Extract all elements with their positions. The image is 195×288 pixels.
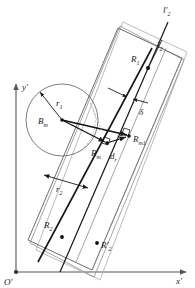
point-Rm1-marker <box>127 134 131 138</box>
figure-container: l′2 l2 R1 δ r1 Bm Rm dr Rm1 <box>0 0 195 288</box>
origin-point <box>14 270 18 274</box>
delta-arrow-left <box>108 88 127 97</box>
rectangle-inner-edges <box>76 48 182 270</box>
vector-Bm-to-Rm1 <box>62 120 127 135</box>
point-markers <box>60 66 150 245</box>
delta-arrow-right <box>133 99 148 103</box>
label-Rm1: Rm1 <box>132 134 146 146</box>
label-y-axis: y′ <box>21 82 29 92</box>
label-r2: r2 <box>56 184 63 196</box>
label-dr: dr <box>110 151 118 163</box>
label-R2: R2 <box>43 220 53 232</box>
label-R1: R1 <box>130 54 140 66</box>
label-origin: O′ <box>4 277 13 287</box>
label-Rm: Rm <box>90 148 102 160</box>
point-R2-marker <box>60 235 64 239</box>
label-R2-prime: R′2 <box>100 240 111 252</box>
delta-angle-indicators <box>108 88 148 103</box>
label-delta: δ <box>139 107 144 117</box>
inner-edge-mid <box>76 48 166 262</box>
vector-Bm-to-Rm <box>62 120 105 142</box>
point-Rm-marker <box>105 141 109 145</box>
point-R2-prime-marker <box>95 241 99 245</box>
label-Bm: Bm <box>38 116 49 128</box>
geometry-diagram: l′2 l2 R1 δ r1 Bm Rm dr Rm1 <box>0 0 195 288</box>
label-l2-prime: l′2 <box>163 5 170 17</box>
label-r1: r1 <box>56 98 63 110</box>
inner-edge-right <box>92 58 182 270</box>
line-l2-group <box>38 22 168 272</box>
label-x-axis: x′ <box>175 276 183 286</box>
point-R1-marker <box>146 66 150 70</box>
